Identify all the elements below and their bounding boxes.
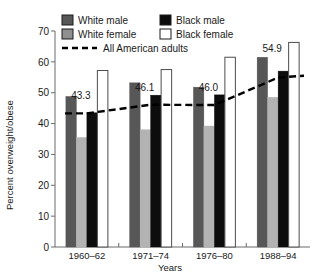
x-tick-1988–94: 1988–94 — [260, 250, 297, 261]
y-tick-10: 10 — [38, 211, 50, 222]
x-axis-title: Years — [158, 262, 182, 273]
bar-black-female-1976–80 — [225, 57, 236, 247]
legend-swatch-black-female — [160, 29, 171, 39]
bar-black-female-1960–62 — [97, 71, 108, 248]
y-tick-60: 60 — [38, 57, 50, 68]
legend-label-black-male: Black male — [176, 15, 225, 26]
y-tick-20: 20 — [38, 180, 50, 191]
y-tick-70: 70 — [38, 26, 50, 37]
chart-container: Percent overweight/obese 70 60 50 40 30 … — [0, 0, 322, 278]
bar-white-male-1960–62 — [66, 96, 77, 247]
legend-swatch-white-female — [62, 29, 73, 39]
x-tick-1960–62: 1960–62 — [68, 250, 105, 261]
bar-white-female-1988–94 — [268, 97, 279, 247]
y-tick-30: 30 — [38, 149, 50, 160]
x-axis-tick-labels: 1960–621971–741976–801988–94 — [68, 250, 296, 261]
x-tick-1971–74: 1971–74 — [132, 250, 169, 261]
y-axis-title: Percent overweight/obese — [4, 100, 15, 210]
legend-label-white-female: White female — [78, 29, 137, 40]
chart-legend: White male Black male White female Black… — [62, 15, 234, 54]
bar-black-male-1971–74 — [151, 95, 162, 247]
data-label-1960–62: 43.3 — [71, 90, 91, 101]
bar-black-male-1988–94 — [278, 71, 289, 247]
trend-line-path — [87, 78, 278, 114]
overweight-obese-bar-chart: Percent overweight/obese 70 60 50 40 30 … — [0, 0, 322, 278]
y-tick-40: 40 — [38, 118, 50, 129]
x-tick-1976–80: 1976–80 — [196, 250, 233, 261]
legend-swatch-white-male — [62, 15, 73, 25]
y-tick-50: 50 — [38, 87, 50, 98]
legend-label-white-male: White male — [78, 15, 128, 26]
bars-layer — [66, 42, 299, 247]
data-label-1976–80: 46.0 — [199, 82, 219, 93]
y-tick-0: 0 — [43, 242, 49, 253]
bar-white-male-1976–80 — [193, 87, 204, 247]
bar-white-female-1971–74 — [140, 130, 151, 247]
legend-label-all-american-adults: All American adults — [103, 43, 188, 54]
bar-black-female-1971–74 — [161, 70, 172, 247]
bar-black-female-1988–94 — [289, 42, 300, 247]
data-label-1971–74: 46.1 — [135, 82, 155, 93]
legend-label-black-female: Black female — [176, 29, 234, 40]
bar-black-male-1976–80 — [214, 95, 225, 247]
bar-black-male-1960–62 — [87, 113, 98, 247]
legend-swatch-black-male — [160, 15, 171, 25]
bar-white-female-1976–80 — [204, 126, 215, 247]
data-label-1988–94: 54.9 — [262, 43, 282, 54]
y-axis-tick-labels: 70 60 50 40 30 20 10 0 — [38, 26, 50, 253]
bar-white-female-1960–62 — [76, 137, 87, 247]
